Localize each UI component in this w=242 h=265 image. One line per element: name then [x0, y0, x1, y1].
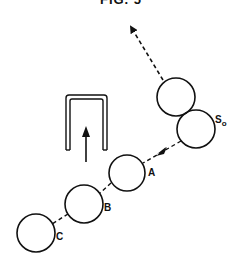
- label-s0: So: [215, 114, 227, 128]
- label-a: A: [148, 167, 155, 178]
- up-arrow: [82, 126, 90, 162]
- s0-to-a-arrow: [143, 141, 181, 163]
- diagram: FIG. 5: [0, 0, 242, 265]
- exit-trajectory-arrow: [131, 27, 163, 80]
- circle-a: [109, 155, 145, 191]
- circle-c: [17, 214, 55, 252]
- circle-b: [65, 185, 103, 223]
- a-to-b-dashed-line: [100, 183, 111, 193]
- label-b: B: [104, 202, 111, 213]
- upper-circle: [157, 78, 195, 116]
- b-to-c-dashed-line: [52, 214, 68, 224]
- circle-s0: [177, 110, 215, 148]
- label-c: C: [56, 231, 63, 242]
- diagram-canvas: [0, 0, 242, 265]
